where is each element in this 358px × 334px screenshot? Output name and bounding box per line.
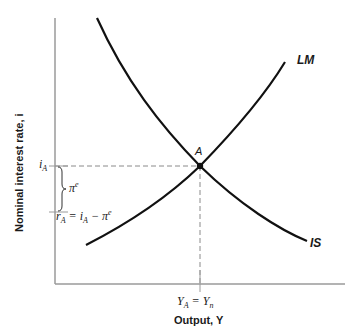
is-lm-diagram: [0, 0, 358, 334]
i-a-label: iA: [39, 157, 47, 173]
x-axis-title: Output, Y: [174, 314, 223, 326]
point-a-label: A: [195, 145, 202, 157]
equilibrium-point-a: [197, 163, 203, 169]
y-axis-title: Nominal interest rate, i: [13, 113, 25, 232]
is-label: IS: [310, 236, 321, 250]
lm-curve: [86, 62, 285, 245]
pi-e-brace: [58, 167, 66, 211]
y-a-equals-y-n-label: YA = Yn: [177, 294, 213, 310]
lm-label: LM: [297, 53, 314, 67]
r-a-equation: rA = iA − πe: [56, 208, 112, 225]
is-curve: [97, 18, 307, 241]
pi-e-label: πe: [69, 180, 79, 196]
